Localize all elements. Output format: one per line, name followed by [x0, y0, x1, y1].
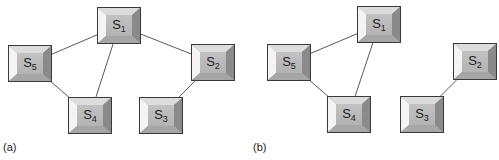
panel-a: S1S5S4S3S2 (a) — [0, 0, 250, 160]
node-s1: S1 — [97, 7, 141, 44]
caption-b: (b) — [253, 141, 266, 153]
node-face: S5 — [17, 53, 43, 74]
node-face: S1 — [366, 14, 392, 35]
node-label: S2 — [206, 54, 220, 71]
node-label: S2 — [468, 53, 482, 70]
node-face: S5 — [276, 52, 302, 73]
node-face: S2 — [200, 52, 226, 73]
node-s4: S4 — [327, 96, 371, 133]
node-s5: S5 — [267, 44, 311, 81]
node-s2: S2 — [191, 44, 235, 81]
node-label: S3 — [154, 107, 168, 124]
node-label: S5 — [282, 54, 296, 71]
node-face: S3 — [409, 104, 435, 125]
caption-a: (a) — [3, 141, 16, 153]
node-s4: S4 — [68, 97, 112, 134]
node-s3: S3 — [139, 97, 183, 134]
node-face: S4 — [77, 105, 103, 126]
node-s5: S5 — [8, 45, 52, 82]
node-s1: S1 — [357, 6, 401, 43]
node-label: S4 — [83, 107, 97, 124]
node-label: S1 — [112, 17, 126, 34]
node-label: S1 — [372, 16, 386, 33]
node-s3: S3 — [400, 96, 444, 133]
node-face: S3 — [148, 105, 174, 126]
node-face: S4 — [336, 104, 362, 125]
node-label: S5 — [23, 55, 37, 72]
node-face: S1 — [106, 15, 132, 36]
node-label: S4 — [342, 106, 356, 123]
node-label: S3 — [415, 106, 429, 123]
node-face: S2 — [462, 51, 488, 72]
panel-b: S1S5S4S3S2 (b) — [250, 0, 499, 160]
node-s2: S2 — [453, 43, 497, 80]
